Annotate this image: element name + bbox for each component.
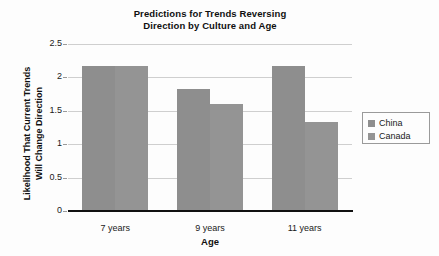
x-tick-label: 7 years [75,223,155,233]
y-tick-mark [63,77,67,78]
bar-canada-11-years[interactable] [305,122,338,211]
y-axis-title-line-2: Will Change Direction [33,34,45,234]
y-tick-mark [63,144,67,145]
x-tick-label: 11 years [265,223,345,233]
y-tick-label: 2.5 [34,38,62,48]
legend-swatch-canada [368,133,375,140]
chart-title-line-2: Direction by Culture and Age [60,20,360,32]
x-axis-title: Age [68,236,352,247]
gridline [68,44,352,45]
y-tick-mark [63,44,67,45]
y-tick-label: 0.5 [34,172,62,182]
bar-china-9-years[interactable] [177,89,210,211]
x-tick-label: 9 years [170,223,250,233]
legend-item-canada[interactable]: Canada [368,130,411,142]
bar-chart-figure: Predictions for Trends Reversing Directi… [0,0,439,256]
y-axis-title-line-1: Likelihood That Current Trends [22,34,34,234]
chart-title-line-1: Predictions for Trends Reversing [60,8,360,20]
bar-china-11-years[interactable] [272,66,305,211]
x-axis-line [68,210,353,212]
y-tick-mark [63,178,67,179]
bar-canada-9-years[interactable] [210,104,243,211]
y-tick-mark [63,111,67,112]
bar-china-7-years[interactable] [82,66,115,211]
legend-label-canada: Canada [379,131,411,141]
y-tick-label: 2 [34,71,62,81]
y-tick-label: 0 [34,205,62,215]
y-tick-label: 1 [34,138,62,148]
plot-area [68,44,352,211]
y-axis-title: Likelihood That Current Trends Will Chan… [22,34,45,234]
chart-title: Predictions for Trends Reversing Directi… [60,8,360,32]
y-tick-mark [63,211,67,212]
legend-swatch-china [368,120,375,127]
legend-item-china[interactable]: China [368,117,403,129]
legend: China Canada [362,112,430,144]
bar-canada-7-years[interactable] [115,66,148,211]
y-tick-label: 1.5 [34,105,62,115]
legend-label-china: China [379,118,403,128]
